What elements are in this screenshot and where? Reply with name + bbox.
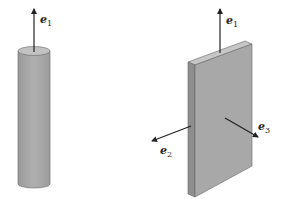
plate-front-face (195, 44, 252, 197)
plate-e2-arrow (152, 126, 191, 141)
rod-body (18, 51, 50, 188)
rod: e1 (18, 9, 52, 188)
plate-e1-label: e1 (226, 14, 238, 29)
plate-side-face (188, 62, 195, 197)
rod-e1-label: e1 (40, 13, 52, 28)
plate-e2-label: e2 (160, 144, 172, 159)
plate-e3-label: e3 (258, 120, 270, 135)
diagram-canvas: e1 e1 e2 e3 (0, 0, 282, 199)
plate: e1 e2 e3 (152, 9, 270, 197)
